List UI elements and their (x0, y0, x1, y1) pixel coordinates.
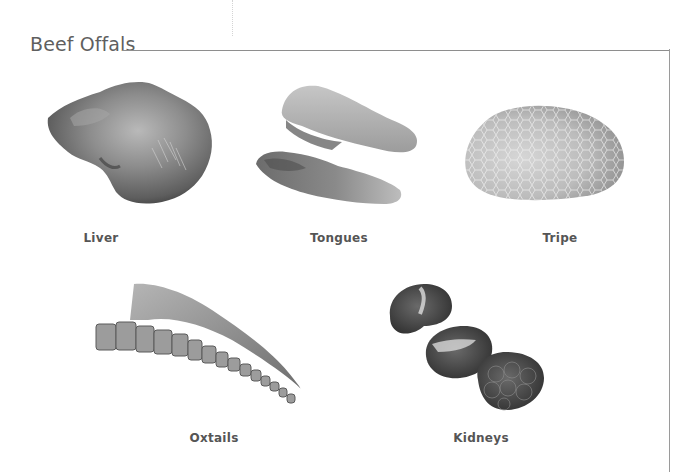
offal-item-liver (40, 78, 220, 218)
oxtails-photo (92, 276, 312, 416)
page-fold-mark (232, 0, 233, 36)
offal-item-tongues (252, 80, 427, 210)
tripe-photo (460, 100, 630, 210)
section-frame-right-rule (669, 49, 670, 472)
offal-label-tripe: Tripe (500, 231, 620, 245)
offal-item-kidneys (384, 280, 554, 415)
kidneys-photo (384, 280, 554, 415)
offal-item-tripe (460, 100, 630, 210)
offal-label-tongues: Tongues (279, 231, 399, 245)
section-title: Beef Offals (30, 33, 135, 55)
liver-photo (40, 78, 220, 218)
tongues-photo (252, 80, 427, 210)
offal-label-liver: Liver (41, 231, 161, 245)
offal-item-oxtails (92, 276, 312, 416)
section-frame-top-rule (122, 50, 670, 51)
offal-label-kidneys: Kidneys (421, 431, 541, 445)
offal-label-oxtails: Oxtails (154, 431, 274, 445)
